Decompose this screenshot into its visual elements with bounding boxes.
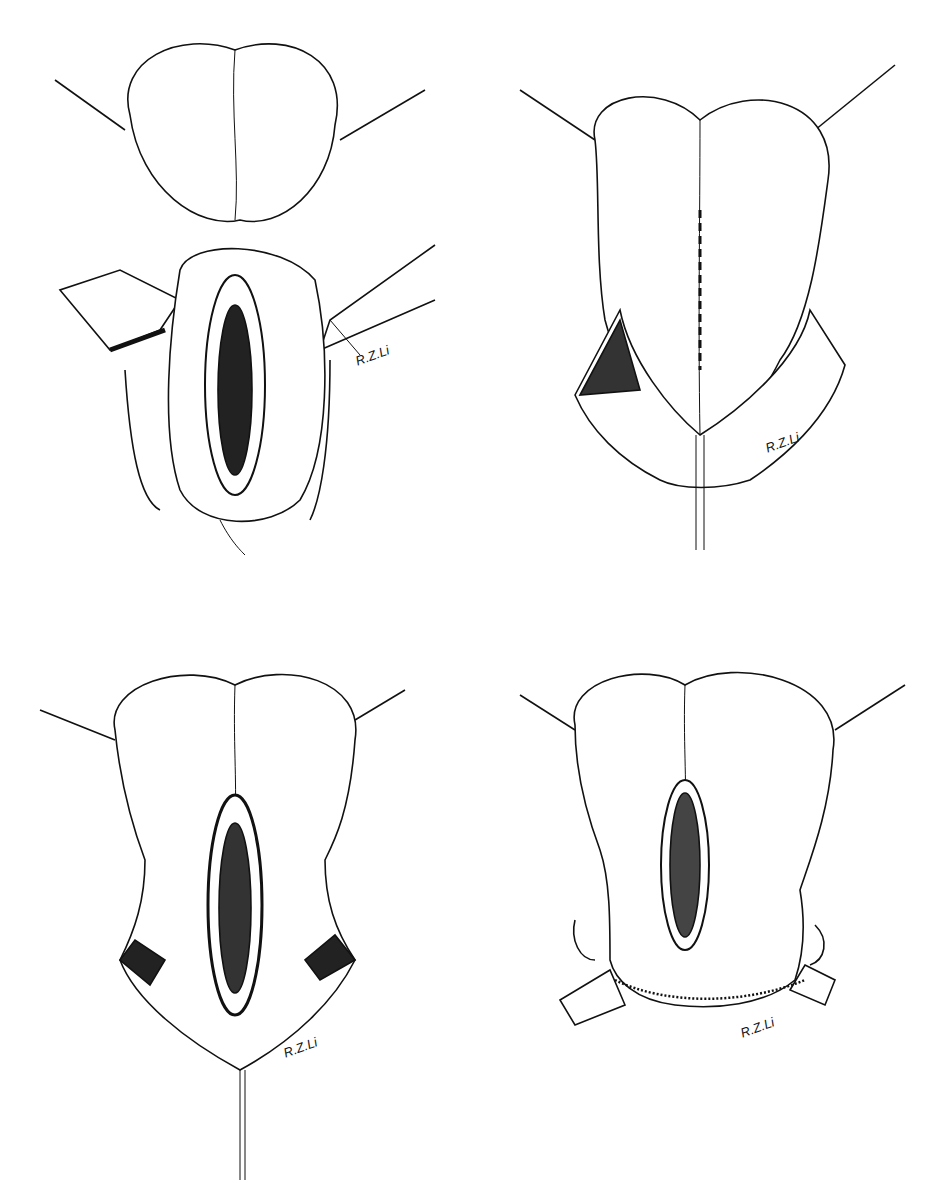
illustration-bottom-right [515,660,915,1060]
panel-bottom-left: R.Z.Li [35,660,415,1180]
panel-top-left: R.Z.Li [30,30,450,560]
panel-bottom-right: R.Z.Li [515,660,915,1060]
illustration-top-left [30,30,450,560]
illustration-top-right [510,60,910,550]
illustration-bottom-left [35,660,415,1180]
panel-top-right: R.Z.Li [510,60,910,550]
